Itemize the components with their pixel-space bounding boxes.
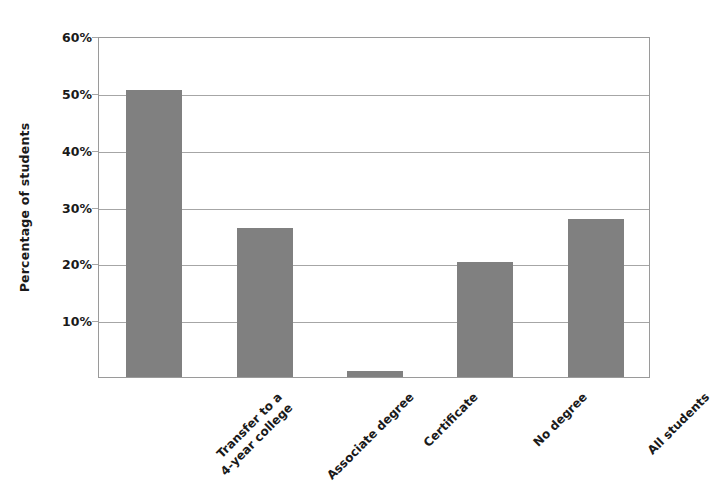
x-tick-label: Transfer to a4-year college	[207, 390, 296, 479]
x-tick-label: No degree	[531, 390, 591, 450]
x-tick-label: Associate degree	[324, 390, 417, 483]
y-tick-label: 30%	[36, 200, 92, 215]
bar	[568, 219, 624, 377]
x-tick-label: Certificate	[421, 390, 482, 451]
y-tick-label: 20%	[36, 257, 92, 272]
bar	[347, 371, 403, 377]
bar	[126, 90, 182, 377]
y-tick-label: 50%	[36, 86, 92, 101]
bar	[237, 228, 293, 377]
y-tick-label: 10%	[36, 314, 92, 329]
y-axis-title: Percentage of students	[10, 37, 38, 378]
y-tick-label: 60%	[36, 30, 92, 45]
x-tick-label: All students	[645, 390, 713, 458]
y-tick-label: 40%	[36, 143, 92, 158]
plot-area	[98, 37, 650, 378]
bar	[457, 262, 513, 377]
